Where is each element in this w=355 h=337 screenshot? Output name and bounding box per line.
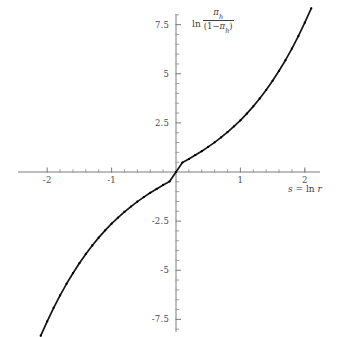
logit-chart-figure: -2-112-7.5-5-2.52.557.5 ln πh (1−πh) s =…	[0, 0, 355, 337]
data-point	[123, 211, 125, 213]
data-point	[143, 196, 145, 198]
data-point	[65, 283, 67, 285]
data-point	[233, 125, 235, 127]
x-axis-label: s = ln r	[288, 184, 322, 194]
data-point	[284, 59, 286, 61]
y-axis-label-ln: ln	[192, 13, 201, 29]
x-axis-label-equals: =	[293, 184, 306, 194]
data-point	[91, 244, 93, 246]
data-point	[226, 131, 228, 133]
x-axis-label-r: r	[317, 184, 321, 194]
data-point	[188, 158, 190, 160]
data-point	[278, 70, 280, 72]
data-point	[181, 161, 183, 163]
data-point	[40, 335, 42, 337]
x-tick-label: 1	[238, 176, 244, 185]
data-point	[149, 192, 151, 194]
data-point	[156, 188, 158, 190]
x-tick-label: -2	[43, 176, 52, 185]
data-point	[46, 320, 48, 322]
y-axis-label-denominator: (1−πh)	[203, 21, 234, 33]
y-axis-label-fraction: πh (1−πh)	[203, 8, 234, 33]
data-point	[304, 22, 306, 24]
data-point	[271, 80, 273, 82]
data-point	[110, 223, 112, 225]
data-point	[220, 136, 222, 138]
data-point	[265, 89, 267, 91]
data-point	[239, 119, 241, 121]
y-axis-label: ln πh (1−πh)	[192, 8, 234, 33]
y-axis-label-numerator: πh	[211, 8, 225, 20]
data-point	[246, 112, 248, 114]
data-point	[213, 141, 215, 143]
x-axis-label-ln: ln	[306, 184, 315, 194]
data-point	[175, 171, 177, 173]
data-point	[136, 201, 138, 203]
data-point	[117, 216, 119, 218]
data-point	[310, 7, 312, 9]
data-point	[162, 184, 164, 186]
data-point	[98, 236, 100, 238]
y-tick-label: 7.5	[155, 20, 169, 29]
y-tick-label: 5	[163, 70, 169, 79]
data-point	[72, 272, 74, 274]
y-tick-label: 2.5	[155, 119, 169, 128]
data-point	[104, 229, 106, 231]
data-point	[259, 97, 261, 99]
data-point	[291, 47, 293, 49]
data-point	[252, 105, 254, 107]
y-tick-label: -7.5	[152, 315, 169, 324]
data-point	[59, 294, 61, 296]
data-point	[52, 307, 54, 309]
data-point	[78, 262, 80, 264]
axes-group	[18, 14, 320, 332]
data-point	[168, 180, 170, 182]
data-point	[201, 150, 203, 152]
y-tick-label: -5	[160, 266, 169, 275]
plot-canvas	[0, 0, 355, 337]
y-tick-label: -2.5	[152, 217, 169, 226]
data-point	[85, 253, 87, 255]
data-point	[207, 146, 209, 148]
x-tick-label: -1	[107, 176, 116, 185]
data-point	[194, 154, 196, 156]
data-point	[297, 35, 299, 37]
data-point	[130, 205, 132, 207]
